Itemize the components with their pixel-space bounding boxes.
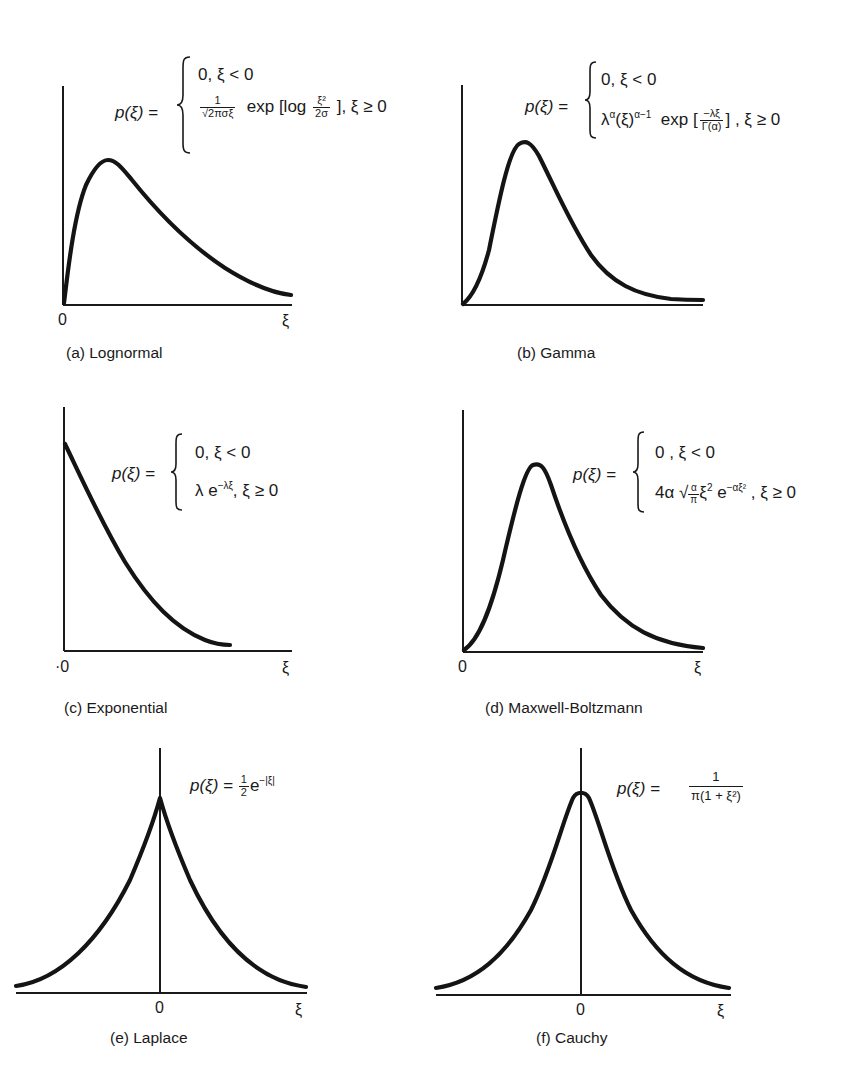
cauchy-fraction: 1π(1 + ξ²) (689, 770, 743, 802)
panel-laplace: 0 ξ p(ξ) = 12e−|ξ| (e) Laplace (0, 730, 431, 1088)
xi-axis-label: ξ (717, 1003, 724, 1019)
xi-axis-label: ξ (295, 1002, 302, 1018)
xi-axis-label: ξ (694, 660, 701, 676)
panel-exponential: ·0 ξ p(ξ) = 0, ξ < 0 λ e−λξ, ξ ≥ 0 (c) E… (0, 370, 431, 730)
lognormal-curve (64, 160, 291, 303)
caption-cauchy: (f) Cauchy (536, 1029, 608, 1047)
origin-label: ·0 (55, 659, 69, 675)
xi-axis-label: ξ (282, 660, 289, 676)
panel-gamma: p(ξ) = 0, ξ < 0 λα(ξ)α−1 exp [−λξΓ(α)] ,… (431, 0, 862, 370)
case-nonnegative: 1√2πσξ exp [log ξ²2σ ], ξ ≥ 0 (198, 95, 387, 119)
cauchy-curve (436, 793, 729, 988)
case-negative: 0, ξ < 0 (601, 71, 656, 88)
caption-laplace: (e) Laplace (110, 1029, 188, 1047)
caption-gamma: (b) Gamma (517, 344, 595, 362)
case-negative: 0, ξ < 0 (198, 66, 253, 83)
xi-axis-label: ξ (282, 313, 289, 329)
caption-lognormal: (a) Lognormal (66, 344, 163, 362)
gamma-curve (463, 142, 703, 304)
panel-cauchy: 0 ξ p(ξ) = 1π(1 + ξ²) (f) Cauchy (431, 730, 862, 1088)
origin-label: 0 (58, 312, 67, 328)
left-brace-icon (584, 60, 598, 140)
half-fraction: 12 (239, 774, 249, 798)
origin-label: 0 (155, 1000, 164, 1016)
left-brace-icon (632, 430, 646, 514)
panel-lognormal: 0 ξ p(ξ) = 0, ξ < 0 1√2πσξ exp [log ξ²2σ… (0, 0, 431, 370)
case-nonnegative: 4α √απξ2 e−αξ² , ξ ≥ 0 (655, 483, 796, 505)
case-nonnegative: λ e−λξ, ξ ≥ 0 (195, 482, 278, 499)
coef-fraction: 1√2πσξ (200, 95, 235, 119)
panel-maxwell-boltzmann: 0 ξ p(ξ) = 0 , ξ < 0 4α √απξ2 e−αξ² , ξ … (431, 370, 862, 730)
gamma-plot (431, 0, 862, 370)
formula-lhs: p(ξ) = (115, 104, 158, 121)
caption-maxwell-boltzmann: (d) Maxwell-Boltzmann (485, 699, 643, 717)
case-negative: 0 , ξ < 0 (655, 444, 715, 461)
case-nonnegative: λα(ξ)α−1 exp [−λξΓ(α)] , ξ ≥ 0 (601, 108, 780, 132)
origin-label: 0 (576, 1002, 585, 1018)
sqrt-fraction: απ (688, 483, 699, 505)
caption-exponential: (c) Exponential (64, 699, 167, 717)
origin-label: 0 (458, 659, 467, 675)
maxwell-boltzmann-plot (431, 370, 862, 730)
left-brace-icon (170, 432, 184, 512)
exp-fraction: ξ²2σ (313, 95, 330, 119)
exponential-plot (0, 370, 431, 730)
left-brace-icon (176, 55, 192, 155)
case-negative: 0, ξ < 0 (195, 444, 250, 461)
exp-fraction: −λξΓ(α) (700, 108, 724, 132)
